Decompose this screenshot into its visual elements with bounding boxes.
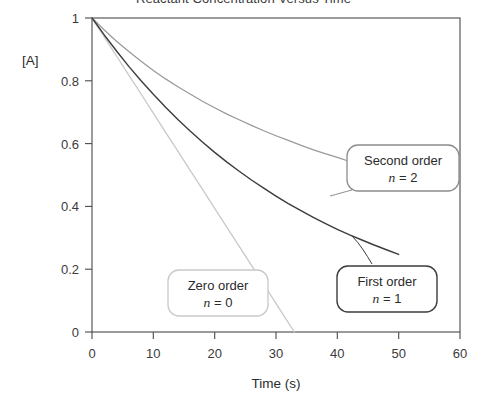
y-tick-label: 0.2 [61,262,79,277]
series-line-first-order [92,18,399,254]
chart-figure: Reactant Concentration Versus Time 1 0.8… [0,0,487,413]
y-tick-label: 0 [72,325,79,340]
y-tick-label: 0.8 [61,74,79,89]
annotation-label-second-order: Second order [364,153,443,168]
x-tick-label: 30 [269,346,283,361]
y-tick-label: 1 [72,11,79,26]
x-axis-title: Time (s) [252,376,301,391]
x-tick-label: 20 [207,346,221,361]
x-axis-tick-labels: 0 10 20 30 40 50 60 [88,346,467,361]
x-tick-label: 40 [330,346,344,361]
annotation-n-value: = 0 [210,295,232,310]
x-tick-label: 60 [453,346,467,361]
annotation-label-first-order: First order [357,274,417,289]
annotation-zero-order[interactable]: Zero order n = 0 [168,270,268,316]
y-axis-tick-labels: 1 0.8 0.6 0.4 0.2 0 [61,11,79,340]
annotation-order-second-order: n = 2 [389,170,418,185]
y-axis-title: [A] [22,53,39,68]
leader-line-second-order [330,190,352,196]
annotation-n-value: = 1 [379,291,401,306]
y-axis-ticks [85,18,92,332]
y-tick-label: 0.6 [61,137,79,152]
annotation-label-zero-order: Zero order [188,278,249,293]
plot-area: 1 0.8 0.6 0.4 0.2 0 [A] 0 10 20 30 40 50… [0,0,487,413]
annotation-order-zero-order: n = 0 [204,295,233,310]
x-tick-label: 10 [146,346,160,361]
annotation-second-order[interactable]: Second order n = 2 [347,145,459,191]
annotation-first-order[interactable]: First order n = 1 [337,266,437,312]
x-tick-label: 50 [391,346,405,361]
x-axis-ticks [92,332,460,339]
annotation-n-value: = 2 [395,170,417,185]
annotation-order-first-order: n = 1 [373,291,402,306]
x-tick-label: 0 [88,346,95,361]
y-tick-label: 0.4 [61,199,79,214]
